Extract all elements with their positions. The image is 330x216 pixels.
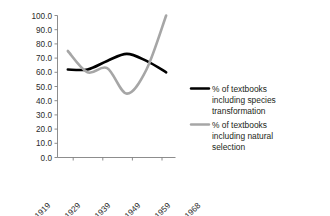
x-tick-label: 1950-1959 — [138, 201, 172, 216]
x-axis-labels: 1900-1919 1920-1929 1930-1939 1940-1949 … — [18, 201, 202, 216]
legend-label-line: % of textbooks — [212, 120, 267, 130]
y-tick-label: 80.0 — [36, 40, 52, 49]
y-tick-label: 70.0 — [36, 54, 52, 63]
chart-container: 100.0 90.0 80.0 70.0 60.0 50.0 40.0 30.0… — [0, 0, 330, 216]
x-tick-label: 1940-1949 — [108, 201, 142, 216]
y-tick-label: 30.0 — [36, 111, 52, 120]
legend-label-line: selection — [212, 142, 245, 152]
series-group — [68, 16, 166, 94]
series-line-natural-selection — [68, 16, 166, 94]
y-tick-label: 0.0 — [41, 154, 53, 163]
y-tick-label: 20.0 — [36, 125, 52, 134]
y-tick-label: 40.0 — [36, 97, 52, 106]
x-tick-label: 1900-1919 — [18, 201, 52, 216]
x-tick-label: 1930-1939 — [78, 201, 112, 216]
legend-label-line: including species — [212, 95, 276, 105]
x-tick-label: 1920-1929 — [48, 201, 82, 216]
legend-label-line: transformation — [212, 106, 266, 116]
y-tick-label: 100.0 — [32, 12, 53, 21]
chart-legend: % of textbooks including species transfo… — [191, 84, 276, 152]
y-tick-label: 60.0 — [36, 68, 52, 77]
y-tick-label: 50.0 — [36, 83, 52, 92]
legend-label-line: including natural — [212, 131, 273, 141]
x-tick-label: 1960-1968 — [168, 201, 202, 216]
line-chart: 100.0 90.0 80.0 70.0 60.0 50.0 40.0 30.0… — [0, 0, 330, 216]
legend-label-line: % of textbooks — [212, 84, 267, 94]
y-axis-labels: 100.0 90.0 80.0 70.0 60.0 50.0 40.0 30.0… — [32, 12, 53, 163]
y-tick-label: 90.0 — [36, 26, 52, 35]
y-tick-label: 10.0 — [36, 139, 52, 148]
